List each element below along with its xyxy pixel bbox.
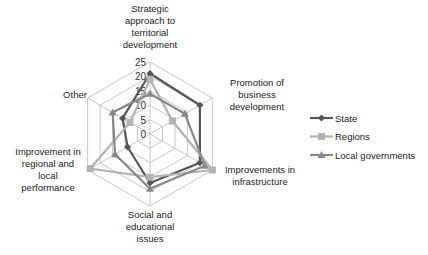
legend-item-local-governments: Local governments (308, 146, 415, 165)
svg-text:25: 25 (135, 57, 147, 68)
axis-label-regional: Improvement in regional and local perfor… (5, 146, 91, 194)
legend-label: State (335, 113, 357, 124)
legend: State Regions Local governments (308, 109, 415, 165)
axis-label-other: Other (60, 89, 90, 101)
axis-label-strategic: Strategic approach to territorial develo… (100, 3, 200, 51)
svg-text:5: 5 (140, 115, 146, 126)
legend-item-regions: Regions (308, 128, 415, 147)
svg-text:0: 0 (140, 129, 146, 140)
axis-label-promotion: Promotion of business development (212, 77, 302, 113)
legend-label: Local governments (335, 150, 415, 161)
legend-label: Regions (335, 131, 370, 142)
axis-label-social: Social and educational issues (105, 209, 195, 245)
axis-label-infrastructure: Improvements in infrastructure (210, 164, 310, 188)
legend-item-state: State (308, 109, 415, 128)
